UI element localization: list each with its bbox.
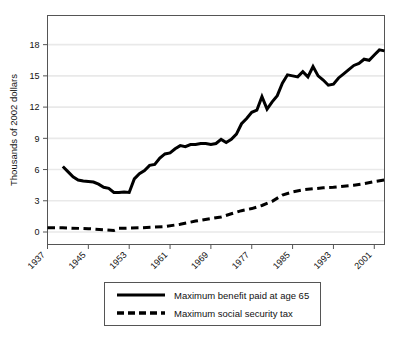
legend-label-tax: Maximum social security tax [174,308,293,319]
y-tick-label: 18 [29,40,39,50]
y-tick-label: 9 [34,134,39,144]
chart-figure: 0369121518 19371945195319611969197719851… [0,0,401,340]
y-tick-label: 15 [29,71,39,81]
chart-legend: Maximum benefit paid at age 65 Maximum s… [105,283,321,326]
y-tick-label: 0 [34,227,39,237]
y-axis-title: Thousands of 2002 dollars [8,74,19,186]
legend-label-benefit: Maximum benefit paid at age 65 [174,290,309,301]
y-tick-label: 6 [34,165,39,175]
line-chart: 0369121518 19371945195319611969197719851… [0,0,401,340]
y-tick-label: 12 [29,102,39,112]
y-tick-label: 3 [34,196,39,206]
